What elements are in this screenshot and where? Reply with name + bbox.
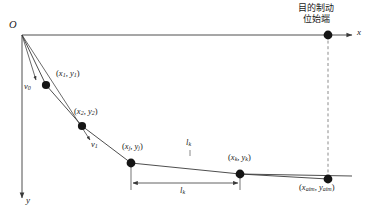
- x-axis-label: x: [357, 28, 361, 37]
- node-p1: [42, 81, 50, 89]
- coord-label-paim: (xaim, yaim): [299, 183, 335, 192]
- origin-label: O: [9, 19, 17, 30]
- velocity-v1-sub: 1: [95, 143, 98, 149]
- diagram-canvas: O x y 目的制动 位始端 v0 v1 (x1, y1) (x2, y2) (…: [0, 0, 372, 220]
- annotation-line-2: 位始端: [284, 14, 348, 25]
- lk-upper-sub: k: [188, 141, 191, 147]
- node-aim-on-axis: [324, 31, 333, 40]
- paim-x-sub: aim: [306, 186, 315, 192]
- node-pj: [127, 159, 136, 168]
- paim-y-sub: aim: [323, 186, 332, 192]
- velocity-v0-sub: 0: [28, 85, 31, 91]
- coord-label-p1: (x1, y1): [56, 69, 80, 78]
- node-pk: [236, 170, 245, 179]
- annotation-line-1: 目的制动: [284, 3, 348, 14]
- trajectory-path: [22, 35, 328, 179]
- target-brake-annotation: 目的制动 位始端: [284, 3, 348, 26]
- coord-label-p2: (x2, y2): [74, 107, 98, 116]
- velocity-label-v1: v1: [91, 140, 98, 149]
- lk-lower-sub: k: [182, 189, 185, 195]
- y-axis-label: y: [26, 196, 30, 205]
- velocity-ray-v0: [22, 35, 36, 80]
- segment-label-lk-upper: lk: [186, 138, 191, 147]
- velocity-label-v0: v0: [24, 82, 31, 91]
- node-p2: [78, 122, 86, 130]
- coord-label-pj: (xj, yj): [122, 142, 143, 151]
- segment-label-lk-lower: lk: [180, 186, 185, 195]
- coord-label-pk: (xk, yk): [228, 153, 251, 162]
